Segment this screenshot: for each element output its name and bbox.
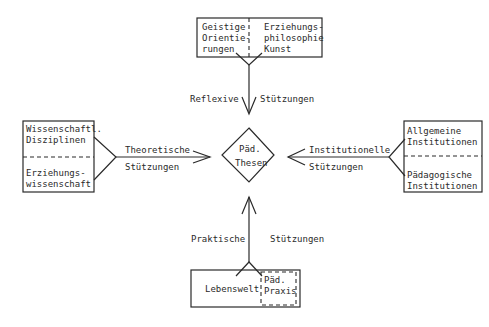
left-box-bottom-line1: Erziehungs- [26, 168, 86, 178]
top-box-left-line3: rungen [202, 44, 235, 54]
right-source-box: Allgemeine Institutionen Pädagogische In… [404, 121, 482, 192]
right-label-bottom: Stützungen [309, 162, 363, 172]
right-box-top-line1: Allgemeine [407, 126, 461, 136]
top-box-left-line2: Orientie- [202, 33, 251, 43]
top-source-box: Geistige Orientie- rungen Erziehungs- ph… [197, 18, 324, 57]
bottom-funnel [236, 262, 262, 276]
diamond-shape [222, 128, 274, 182]
left-label-bottom: Stützungen [125, 162, 179, 172]
left-box-bottom-line2: wissenschaft [26, 179, 91, 189]
top-label-left: Reflexive [190, 94, 239, 104]
right-box-top-line2: Institutionen [407, 137, 477, 147]
left-arrow [94, 137, 210, 180]
left-box-top-line1: Wissenschaftl. [26, 124, 102, 134]
right-funnel [389, 139, 405, 176]
right-box-bottom-line1: Pädagogische [407, 170, 472, 180]
top-box-right-line1: Erziehungs- [264, 22, 324, 32]
bottom-inner-line2: Praxis [264, 286, 297, 296]
left-source-box: Wissenschaftl. Disziplinen Erziehungs- w… [23, 121, 102, 192]
top-box-right-line2: philosophie [264, 33, 324, 43]
top-box-left-line1: Geistige [202, 22, 245, 32]
left-box-top-line2: Disziplinen [26, 135, 86, 145]
bottom-label-left: Praktische [191, 234, 245, 244]
top-box-right-line3: Kunst [264, 44, 291, 54]
left-label-top: Theoretische [125, 145, 190, 155]
right-label-top: Institutionelle [309, 145, 390, 155]
center-line1: Päd. [239, 144, 261, 154]
bottom-label-right: Stützungen [270, 234, 324, 244]
center-line2: Thesen [235, 158, 268, 168]
top-label-right: Stützungen [260, 94, 314, 104]
bottom-source-box: Lebenswelt Päd. Praxis [191, 270, 300, 307]
bottom-inner-line1: Päd. [264, 275, 286, 285]
left-funnel [94, 137, 116, 180]
bottom-box-left: Lebenswelt [205, 284, 259, 294]
diagram-canvas: Geistige Orientie- rungen Erziehungs- ph… [0, 0, 489, 327]
center-diamond: Päd. Thesen [222, 128, 274, 182]
right-box-bottom-line2: Institutionen [407, 181, 477, 191]
top-arrow [236, 53, 262, 114]
